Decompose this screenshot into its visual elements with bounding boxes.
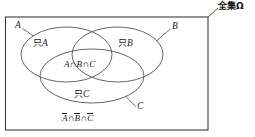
complement-operator-1: ∩ (68, 113, 75, 123)
complement-c: C (87, 114, 93, 123)
region-only-c-prefix: 只 (74, 89, 83, 99)
set-a-label: A (15, 21, 21, 31)
region-only-b-prefix: 只 (118, 38, 127, 48)
complement-a: A (62, 114, 68, 123)
region-complement-intersection-label: A∩B∩C (62, 114, 93, 123)
set-b-ellipse (72, 27, 163, 82)
set-a-ellipse (21, 27, 112, 82)
intersection-operator-1: ∩ (70, 59, 77, 69)
region-only-c-label: 只C (74, 90, 89, 100)
venn-diagram-canvas (0, 0, 255, 137)
universal-set-label-text: 全集Ω (218, 1, 244, 11)
universal-set-label: 全集Ω (218, 2, 244, 11)
region-triple-intersection-label: A∩B∩C (64, 60, 95, 69)
set-c-label: C (137, 102, 143, 112)
universal-set-leader-line (208, 8, 218, 17)
set-c-ellipse (40, 49, 144, 103)
triple-intersection-c: C (89, 59, 95, 69)
set-a-leader-line (23, 29, 34, 37)
complement-operator-2: ∩ (80, 113, 87, 123)
region-only-b-set: B (127, 38, 133, 48)
region-only-a-prefix: 只 (33, 38, 42, 48)
complement-b: B (75, 114, 81, 123)
set-b-label: B (172, 22, 178, 32)
venn-diagram-figure: 全集Ω A B C 只A 只B 只C A∩B∩C A∩B∩C (0, 0, 255, 137)
set-b-leader-line (157, 29, 171, 41)
region-only-c-set: C (83, 89, 89, 99)
triple-intersection-a: A (64, 59, 70, 69)
region-only-a-label: 只A (33, 39, 48, 49)
set-c-leader-line (126, 96, 136, 107)
region-only-b-label: 只B (118, 39, 133, 49)
region-only-a-set: A (42, 38, 48, 48)
